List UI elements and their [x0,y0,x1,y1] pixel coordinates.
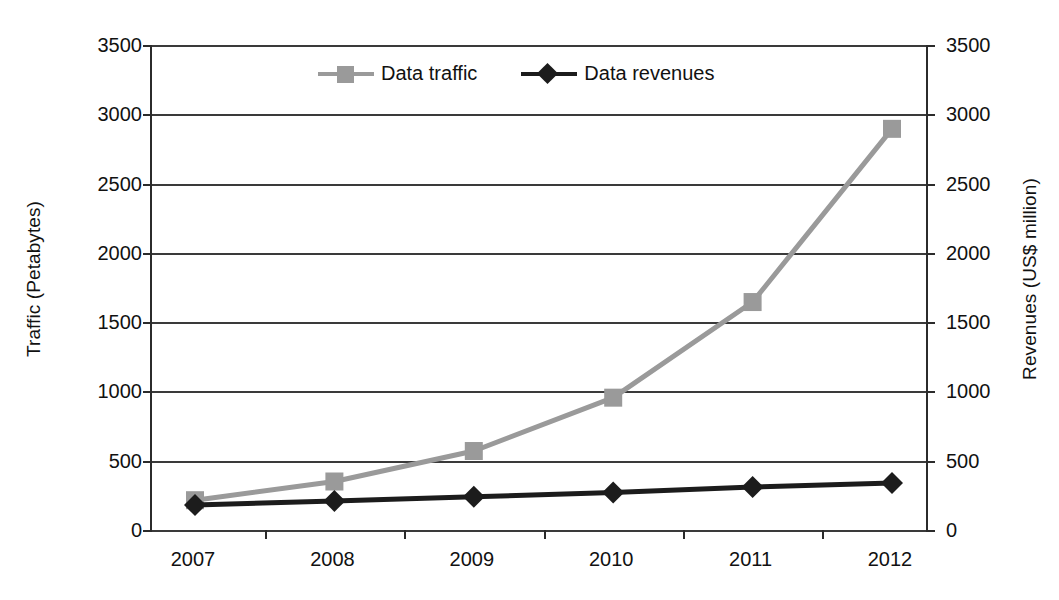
legend-diamond-icon [521,63,577,85]
x-axis-label: 2009 [427,548,517,571]
data-point-marker [602,482,624,504]
y-axis-left-tick-label: 0 [20,520,142,540]
x-tick-mark [683,530,685,539]
y-tick-mark-left [143,45,152,47]
x-axis-label: 2010 [566,548,656,571]
y-axis-right-tick-label: 500 [946,451,1059,471]
data-point-marker [744,293,762,311]
data-point-marker [881,472,903,494]
series-layer [152,45,930,530]
legend-marker [337,66,354,83]
y-tick-mark-left [143,322,152,324]
legend-entry[interactable]: Data traffic [318,62,477,85]
y-axis-left-tick-label: 1000 [20,381,142,401]
y-axis-right-tick-label: 3500 [946,35,1059,55]
y-axis-right-tick-label: 3000 [946,104,1059,124]
legend-square-icon [318,63,374,85]
x-tick-mark [404,530,406,539]
x-axis-label: 2008 [287,548,377,571]
x-axis-label: 2011 [706,548,796,571]
y-axis-right-tick-label: 1000 [946,381,1059,401]
y-tick-mark-left [143,184,152,186]
line-chart: Traffic (Petabytes) Revenues (US$ millio… [0,0,1059,600]
x-axis-label: 2012 [845,548,935,571]
y-tick-mark-right [926,530,935,532]
series-line [195,129,892,500]
data-point-marker [742,476,764,498]
data-point-marker [465,442,483,460]
y-axis-right-tick-label: 0 [946,520,1059,540]
data-point-marker [325,473,343,491]
plot-area [150,45,928,530]
y-axis-left-tick-label: 500 [20,451,142,471]
y-axis-left-tick-label: 1500 [20,312,142,332]
y-axis-left-tick-label: 3500 [20,35,142,55]
x-tick-mark [265,530,267,539]
chart-legend: Data trafficData revenues [318,62,714,85]
data-point-marker [463,486,485,508]
legend-marker [537,62,558,83]
gridline [152,530,926,532]
y-tick-mark-left [143,114,152,116]
y-tick-mark-left [143,530,152,532]
data-point-marker [883,120,901,138]
x-tick-mark [822,530,824,539]
x-tick-mark [544,530,546,539]
y-axis-left-tick-label: 2000 [20,243,142,263]
y-axis-left-tick-label: 3000 [20,104,142,124]
legend-label: Data revenues [584,62,714,85]
y-tick-mark-left [143,253,152,255]
y-tick-mark-left [143,461,152,463]
y-axis-left-tick-label: 2500 [20,174,142,194]
x-axis-label: 2007 [148,548,238,571]
data-point-marker [323,490,345,512]
y-axis-right-tick-label: 2500 [946,174,1059,194]
data-point-marker [604,389,622,407]
legend-label: Data traffic [381,62,477,85]
y-tick-mark-left [143,391,152,393]
y-axis-right-tick-label: 1500 [946,312,1059,332]
legend-entry[interactable]: Data revenues [521,62,714,85]
y-axis-right-tick-label: 2000 [946,243,1059,263]
